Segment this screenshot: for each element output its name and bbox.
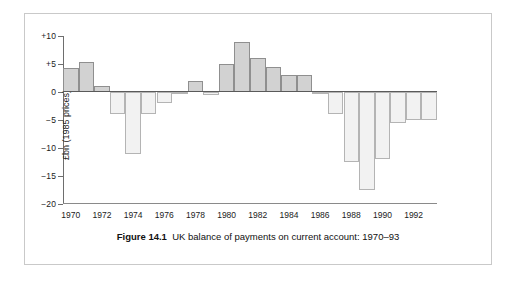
x-axis-label-1980: 1980	[217, 210, 236, 220]
y-axis-tick-label: −5	[46, 115, 56, 125]
bar-1971	[79, 62, 95, 92]
x-axis-label-1970: 1970	[61, 210, 80, 220]
y-axis-tick-mark	[58, 36, 63, 37]
x-axis-label-1982: 1982	[248, 210, 267, 220]
figure-frame: +10+50−5−10−15−20 1970197219741976197819…	[24, 13, 492, 265]
bar-1988	[344, 92, 360, 162]
x-axis-label-1986: 1986	[311, 210, 330, 220]
bar-1985	[297, 75, 313, 92]
bar-1976	[157, 92, 173, 103]
bar-1983	[266, 67, 282, 92]
bar-1986	[312, 92, 328, 94]
x-axis-label-1992: 1992	[404, 210, 423, 220]
y-axis-tick-label: 0	[51, 87, 56, 97]
bar-1993	[421, 92, 437, 120]
x-axis-label-1978: 1978	[186, 210, 205, 220]
bar-1984	[281, 75, 297, 92]
figure-caption-text: UK balance of payments on current accoun…	[172, 231, 399, 242]
bar-1977	[172, 92, 188, 94]
x-axis-label-1984: 1984	[279, 210, 298, 220]
y-axis-tick-label: −10	[41, 143, 56, 153]
bar-1970	[63, 68, 79, 92]
y-axis-tick-label: +10	[41, 31, 56, 41]
x-axis-line	[63, 203, 437, 204]
bar-1989	[359, 92, 375, 190]
x-axis-label-1976: 1976	[155, 210, 174, 220]
bar-1982	[250, 58, 266, 92]
x-axis-label-1988: 1988	[342, 210, 361, 220]
y-axis-tick-label: +5	[46, 59, 56, 69]
figure-caption: Figure 14.1 UK balance of payments on cu…	[25, 231, 491, 242]
bar-1975	[141, 92, 157, 114]
bar-1992	[406, 92, 422, 120]
x-axis-label-1990: 1990	[373, 210, 392, 220]
y-axis-tick-label: −20	[41, 199, 56, 209]
y-axis-tick-label: −15	[41, 171, 56, 181]
bar-1980	[219, 64, 235, 92]
bar-1973	[110, 92, 126, 114]
x-axis-label-1972: 1972	[92, 210, 111, 220]
x-axis-label-1974: 1974	[124, 210, 143, 220]
y-axis-tick-mark	[58, 204, 63, 205]
bar-1990	[375, 92, 391, 159]
bar-1987	[328, 92, 344, 114]
chart-plot-area: +10+50−5−10−15−20 1970197219741976197819…	[63, 36, 437, 204]
bar-1981	[234, 42, 250, 92]
bar-1979	[203, 92, 219, 95]
bar-1991	[390, 92, 406, 123]
zero-baseline	[63, 91, 437, 92]
figure-caption-label: Figure 14.1	[117, 231, 167, 242]
bar-1974	[125, 92, 141, 154]
